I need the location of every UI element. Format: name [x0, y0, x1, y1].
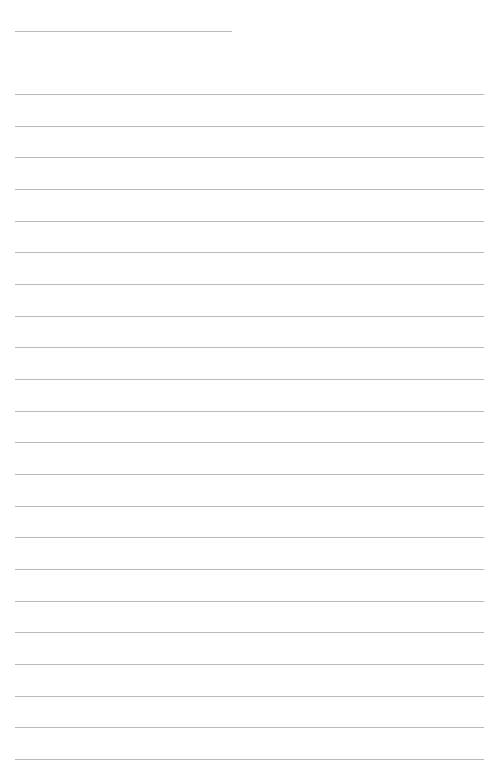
- ruled-line: [15, 537, 484, 538]
- ruled-line: [15, 664, 484, 665]
- ruled-line: [15, 221, 484, 222]
- ruled-line: [15, 252, 484, 253]
- title-line: [15, 31, 232, 32]
- ruled-line: [15, 316, 484, 317]
- ruled-line: [15, 759, 484, 760]
- ruled-line: [15, 347, 484, 348]
- ruled-line: [15, 411, 484, 412]
- ruled-line: [15, 506, 484, 507]
- ruled-line: [15, 442, 484, 443]
- ruled-line: [15, 189, 484, 190]
- ruled-line: [15, 601, 484, 602]
- ruled-line: [15, 474, 484, 475]
- ruled-line: [15, 569, 484, 570]
- ruled-line: [15, 284, 484, 285]
- ruled-line: [15, 379, 484, 380]
- ruled-line: [15, 727, 484, 728]
- ruled-line: [15, 94, 484, 95]
- ruled-line: [15, 157, 484, 158]
- ruled-line: [15, 632, 484, 633]
- ruled-line: [15, 126, 484, 127]
- ruled-line: [15, 696, 484, 697]
